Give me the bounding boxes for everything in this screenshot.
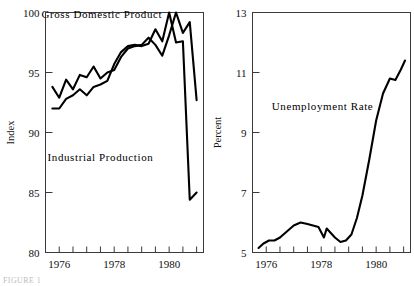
y-axis-title: Index: [5, 120, 16, 145]
y-tick-label: 11: [236, 67, 247, 79]
y-tick-label: 9: [241, 127, 247, 139]
series-annotation-0: Unemployment Rate: [272, 100, 374, 112]
x-tick-label: 1980: [158, 258, 181, 270]
figure-background: [0, 0, 414, 286]
y-tick-label: 90: [29, 127, 41, 139]
figure-caption: FIGURE 1: [3, 276, 41, 285]
series-annotation-0: Gross Domestic Product: [41, 8, 162, 20]
x-tick-label: 1980: [365, 258, 388, 270]
x-tick-label: 1978: [103, 258, 126, 270]
y-tick-label: 95: [29, 67, 41, 79]
y-tick-label: 7: [241, 187, 247, 199]
y-tick-label: 85: [29, 187, 41, 199]
y-tick-label: 5: [241, 247, 247, 259]
y-tick-label: 100: [23, 7, 40, 19]
y-axis-title: Percent: [212, 117, 223, 149]
y-tick-label: 80: [29, 247, 41, 259]
x-tick-label: 1976: [48, 258, 71, 270]
series-annotation-1: Industrial Production: [48, 151, 154, 163]
x-tick-label: 1978: [310, 258, 333, 270]
figure-container: 80859095100197619781980IndexGross Domest…: [0, 0, 414, 286]
y-tick-label: 13: [236, 7, 248, 19]
x-tick-label: 1976: [255, 258, 278, 270]
